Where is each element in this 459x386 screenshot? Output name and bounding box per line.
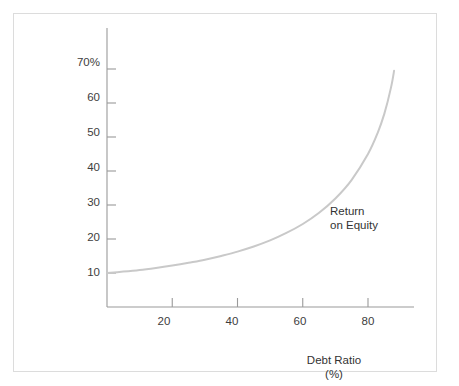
y-tick-label-70: 70% — [54, 57, 100, 69]
x-axis-title-units: (%) — [307, 367, 361, 381]
return-on-equity-label: Return on Equity — [330, 204, 378, 232]
x-tick-label-60: 60 — [294, 316, 307, 328]
y-tick-label-30: 30 — [54, 197, 100, 209]
x-tick-label-20: 20 — [158, 316, 171, 328]
x-axis-ticks — [172, 298, 368, 307]
figure-root: 70% 60 50 40 30 20 10 20 40 60 80 Debt R… — [0, 0, 459, 386]
y-tick-label-10: 10 — [54, 267, 100, 279]
return-on-equity-curve — [107, 71, 394, 273]
y-tick-label-50: 50 — [54, 127, 100, 139]
return-on-equity-label-line1: Return — [330, 204, 378, 218]
y-axis-ticks — [107, 69, 116, 273]
x-tick-label-80: 80 — [362, 316, 375, 328]
x-axis-title: Debt Ratio (%) — [307, 353, 361, 381]
x-tick-label-40: 40 — [226, 316, 239, 328]
page-header-ghost-text — [383, 0, 453, 10]
y-tick-label-40: 40 — [54, 162, 100, 174]
chart-frame: 70% 60 50 40 30 20 10 20 40 60 80 Debt R… — [13, 13, 437, 372]
x-axis-title-line1: Debt Ratio — [307, 353, 361, 367]
return-on-equity-label-line2: on Equity — [330, 218, 378, 232]
y-tick-label-60: 60 — [54, 92, 100, 104]
y-tick-label-20: 20 — [54, 232, 100, 244]
